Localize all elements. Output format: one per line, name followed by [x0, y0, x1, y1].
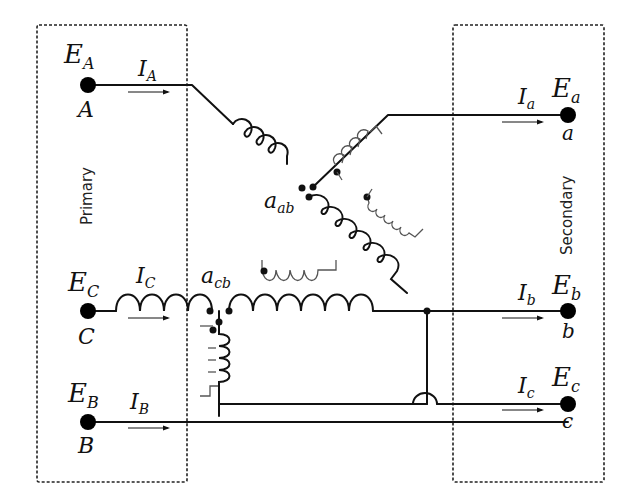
terminal-A	[80, 77, 96, 93]
secondary-box	[453, 25, 604, 482]
winding-label-aab: aab	[264, 188, 294, 216]
node-label-a: a	[562, 121, 574, 145]
terminal-B	[80, 414, 96, 430]
phase-c-wiring	[88, 260, 568, 315]
node-label-A: A	[76, 97, 94, 122]
voltage-label-EC: EC	[67, 267, 99, 301]
phase-b-wiring	[88, 404, 568, 422]
primary-label: Primary	[78, 167, 96, 225]
phase-a-output-wiring	[313, 115, 568, 187]
current-label-IB: IB	[129, 389, 149, 417]
current-label-IA: IA	[137, 56, 157, 84]
winding-ab	[309, 189, 423, 293]
current-label-Ib: Ib	[517, 280, 536, 308]
current-label-Ia: Ia	[517, 84, 535, 112]
node-label-b: b	[562, 319, 575, 343]
current-label-IC: IC	[135, 263, 156, 291]
winding-cb-vertical	[200, 311, 427, 416]
secondary-label: Secondary	[558, 175, 576, 255]
voltage-label-EA: EA	[63, 39, 95, 73]
node-label-B: B	[77, 433, 94, 458]
node-label-C: C	[78, 324, 95, 349]
b-node-wiring	[424, 308, 431, 405]
terminal-b	[560, 303, 576, 319]
voltage-label-Eb: Eb	[551, 270, 581, 304]
voltage-label-EB: EB	[67, 378, 99, 412]
terminal-C	[80, 303, 96, 319]
phase-a-wiring	[88, 85, 288, 164]
node-label-c: c	[562, 409, 573, 433]
transformer-diagram: Primary Secondary	[0, 0, 627, 504]
voltage-label-Ea: Ea	[551, 73, 581, 107]
current-label-Ic: Ic	[517, 373, 535, 401]
winding-label-acb: acb	[201, 263, 231, 291]
voltage-label-Ec: Ec	[551, 362, 580, 396]
